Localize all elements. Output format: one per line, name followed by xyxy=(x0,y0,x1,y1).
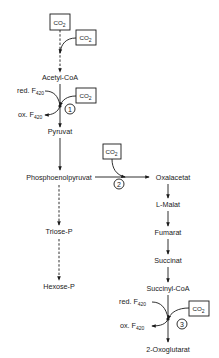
cofactor-ox-f420-1: ox. F420 xyxy=(18,110,43,120)
svg-text:2: 2 xyxy=(117,181,121,188)
compound-hexose-p: Hexose-P xyxy=(43,282,75,291)
arrow-red-f420-in-3 xyxy=(152,302,168,318)
pathway-diagram: CO2 CO2 Acetyl-CoA red. F420 ox. F420 CO… xyxy=(0,0,219,358)
svg-text:red. F420: red. F420 xyxy=(119,297,146,307)
compound-fumarat: Fumarat xyxy=(155,228,182,237)
co2-box-top: CO2 xyxy=(50,14,70,30)
compound-pyruvat: Pyruvat xyxy=(48,127,72,136)
co2-box-enzyme-1: CO2 xyxy=(76,88,96,103)
arrow-co2-in-enzyme-3 xyxy=(168,308,189,319)
compound-2-oxoglutarat: 2-Oxoglutarat xyxy=(146,345,190,354)
arrow-ox-f420-out-3 xyxy=(152,319,168,326)
compound-succinat: Succinat xyxy=(154,256,182,265)
arrow-co2-side-input-1 xyxy=(60,38,76,53)
svg-text:ox. F420: ox. F420 xyxy=(120,321,145,331)
svg-text:3: 3 xyxy=(180,321,184,328)
compound-triose-p: Triose-P xyxy=(46,227,73,236)
cofactor-red-f420-1: red. F420 xyxy=(17,86,44,96)
compound-succinyl-coa: Succinyl-CoA xyxy=(146,284,189,293)
compound-acetyl-coa: Acetyl-CoA xyxy=(42,73,78,82)
co2-box-enzyme-2: CO2 xyxy=(103,144,121,159)
enzyme-2-badge: 2 xyxy=(114,179,124,189)
enzyme-3-badge: 3 xyxy=(177,319,187,329)
arrow-co2-in-enzyme-2 xyxy=(112,159,125,177)
co2-box-enzyme-3: CO2 xyxy=(189,301,209,316)
cofactor-ox-f420-3: ox. F420 xyxy=(120,321,145,331)
svg-text:red. F420: red. F420 xyxy=(17,86,44,96)
compound-oxalacetat: Oxalacetat xyxy=(156,173,190,182)
svg-text:ox. F420: ox. F420 xyxy=(18,110,43,120)
svg-text:1: 1 xyxy=(68,106,72,113)
co2-box-side-1: CO2 xyxy=(76,30,96,45)
arrow-red-f420-in-1 xyxy=(45,91,60,105)
arrow-ox-f420-out-1 xyxy=(45,106,60,115)
enzyme-1-badge: 1 xyxy=(65,104,75,114)
compound-phosphoenolpyruvat: Phosphoenolpyruvat xyxy=(26,173,92,182)
compound-l-malat: L-Malat xyxy=(156,200,180,209)
cofactor-red-f420-3: red. F420 xyxy=(119,297,146,307)
